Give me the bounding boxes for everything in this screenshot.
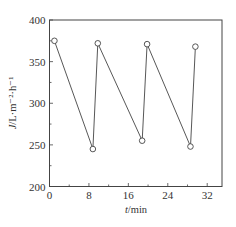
y-tick-label: 400	[29, 14, 46, 26]
y-tick-label: 350	[29, 56, 46, 68]
y-tick-label: 200	[29, 181, 46, 193]
y-axis-label: J/L·m⁻²·h⁻¹	[7, 77, 18, 130]
data-series	[52, 38, 199, 152]
y-tick-label: 300	[29, 97, 46, 109]
x-tick-label: 0	[47, 189, 53, 201]
x-tick-label: 32	[202, 189, 213, 201]
data-point-marker	[144, 41, 150, 47]
data-point-marker	[52, 38, 58, 44]
data-point-marker	[139, 138, 145, 144]
y-axis-unit: /L·m⁻²·h⁻¹	[7, 77, 18, 125]
x-tick-label: 24	[162, 189, 174, 201]
axis-ticks	[50, 20, 208, 187]
data-point-marker	[95, 41, 101, 47]
y-tick-label: 250	[29, 139, 46, 151]
data-point-marker	[188, 144, 194, 150]
series-line	[54, 41, 195, 149]
data-point-marker	[193, 44, 199, 50]
data-point-marker	[90, 146, 96, 152]
x-tick-label: 8	[86, 189, 92, 201]
x-tick-label: 16	[123, 189, 135, 201]
x-axis-label: t/min	[125, 204, 148, 215]
x-axis-unit: /min	[128, 204, 148, 215]
flux-chart: 08162432200250300350400 t/min J/L·m⁻²·h⁻…	[0, 0, 236, 227]
